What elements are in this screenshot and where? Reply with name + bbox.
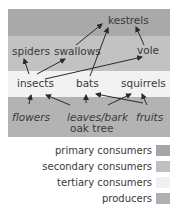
arrow-leaves-squirrels: [108, 94, 131, 105]
legend-swatch: [156, 161, 170, 172]
legend-swatch: [156, 145, 170, 156]
legend-label: producers: [102, 193, 152, 204]
arrow-insects-spiders: [24, 59, 29, 74]
node-kestrels: kestrels: [108, 15, 149, 26]
legend-swatch: [156, 177, 170, 188]
arrow-swallows-kestrels: [76, 24, 102, 45]
legend-item-producers: producers: [102, 192, 170, 204]
legend-swatch: [156, 193, 170, 204]
node-bats: bats: [76, 78, 99, 89]
node-swallows: swallows: [54, 46, 101, 57]
node-flowers: flowers: [12, 112, 50, 123]
legend-label: primary consumers: [55, 145, 152, 156]
legend-label: tertiary consumers: [57, 177, 152, 188]
arrow-insects-swallows: [37, 59, 65, 74]
node-squirrels: squirrels: [121, 78, 166, 89]
legend-item-tertiary-consumers: tertiary consumers: [57, 176, 170, 188]
node-insects: insects: [17, 78, 54, 89]
node-spiders: spiders: [12, 46, 50, 57]
legend-label: secondary consumers: [42, 161, 152, 172]
legend-item-secondary-consumers: secondary consumers: [42, 160, 170, 172]
arrow-flowers-insects: [29, 95, 31, 104]
arrow-fruits-bats: [96, 94, 143, 103]
arrow-leaves-insects: [46, 95, 70, 105]
node-oak-tree: oak tree: [70, 123, 113, 134]
node-fruits: fruits: [136, 112, 163, 123]
node-vole: vole: [137, 45, 159, 56]
legend-item-primary-consumers: primary consumers: [55, 144, 170, 156]
arrow-vole-kestrels: [136, 27, 144, 45]
